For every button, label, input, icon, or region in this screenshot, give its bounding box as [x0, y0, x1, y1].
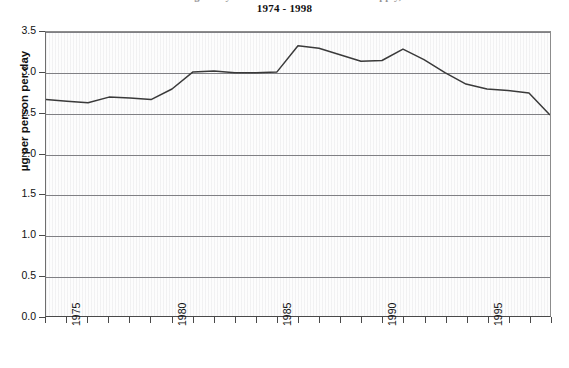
- x-tick-mark: [172, 317, 173, 323]
- x-tick-label: 1975: [70, 303, 82, 326]
- y-tick-label: 2.0: [0, 147, 36, 159]
- x-tick-mark: [235, 317, 236, 323]
- x-tick-mark: [45, 317, 46, 323]
- x-tick-mark: [193, 317, 194, 323]
- plot-area: [45, 31, 551, 317]
- x-tick-mark: [214, 317, 215, 323]
- y-tick-label: 3.5: [0, 24, 36, 36]
- x-tick-label: 1995: [492, 303, 504, 326]
- x-axis: 19751980198519901995: [45, 317, 551, 368]
- x-tick-mark: [551, 317, 552, 323]
- x-tick-mark: [425, 317, 426, 323]
- x-tick-mark: [319, 317, 320, 323]
- x-tick-mark: [298, 317, 299, 323]
- x-tick-mark: [277, 317, 278, 323]
- x-tick-label: 1980: [176, 303, 188, 326]
- x-tick-mark: [108, 317, 109, 323]
- x-tick-mark: [256, 317, 257, 323]
- x-tick-mark: [87, 317, 88, 323]
- y-tick-label: 3.0: [0, 65, 36, 77]
- data-line-series: [46, 32, 550, 317]
- x-tick-mark: [467, 317, 468, 323]
- x-tick-mark: [488, 317, 489, 323]
- x-tick-mark: [446, 317, 447, 323]
- x-tick-mark: [150, 317, 151, 323]
- x-tick-mark: [382, 317, 383, 323]
- y-tick-label: 0.0: [0, 310, 36, 322]
- x-tick-mark: [530, 317, 531, 323]
- x-tick-mark: [129, 317, 130, 323]
- y-tick-label: 1.0: [0, 228, 36, 240]
- x-tick-mark: [361, 317, 362, 323]
- x-tick-label: 1985: [281, 303, 293, 326]
- data-line: [46, 46, 550, 115]
- y-tick-label: 2.5: [0, 106, 36, 118]
- y-axis: 0.00.51.01.52.02.53.03.5: [0, 31, 45, 317]
- x-tick-mark: [340, 317, 341, 323]
- x-tick-mark: [403, 317, 404, 323]
- y-tick-label: 0.5: [0, 269, 36, 281]
- x-tick-mark: [509, 317, 510, 323]
- x-tick-label: 1990: [386, 303, 398, 326]
- chart-title-line2: 1974 - 1998: [0, 2, 569, 16]
- y-tick-label: 1.5: [0, 187, 36, 199]
- x-tick-mark: [66, 317, 67, 323]
